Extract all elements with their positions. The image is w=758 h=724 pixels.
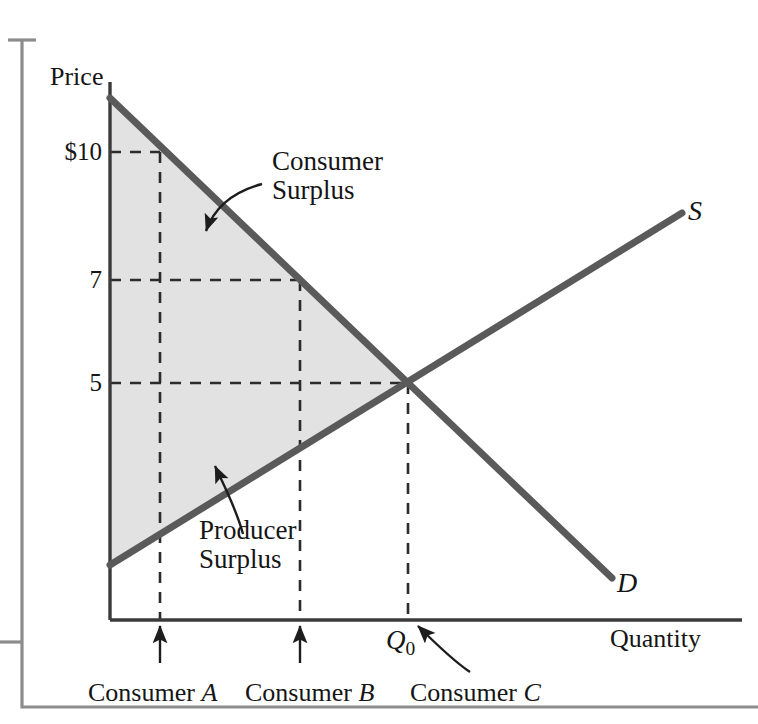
x-axis-title: Quantity [610, 625, 701, 653]
consumer-c-name: Consumer [410, 678, 517, 707]
y-axis-title: Price [50, 63, 103, 91]
q0-letter: Q [386, 625, 406, 655]
demand-curve-label: D [617, 568, 637, 598]
consumer-b-label: Consumer B [245, 679, 374, 707]
q0-subscript: 0 [406, 638, 416, 659]
consumer-surplus-line1: Consumer [272, 147, 383, 176]
consumer-surplus-line2: Surplus [272, 176, 383, 205]
consumer-a-letter: A [201, 678, 217, 707]
supply-demand-chart [0, 0, 758, 724]
arrow-consumer-c [418, 626, 470, 672]
equilibrium-quantity-label: Q0 [386, 626, 415, 659]
producer-surplus-annotation: Producer Surplus [199, 516, 296, 574]
consumer-c-label: Consumer C [410, 679, 541, 707]
consumer-surplus-annotation: Consumer Surplus [272, 147, 383, 205]
consumer-tick-arrows [160, 626, 470, 672]
consumer-b-name: Consumer [245, 678, 352, 707]
consumer-a-label: Consumer A [88, 679, 217, 707]
consumer-b-letter: B [358, 678, 374, 707]
supply-curve-label: S [688, 196, 702, 226]
consumer-c-letter: C [523, 678, 540, 707]
y-tick-label-7: 7 [42, 266, 102, 293]
producer-surplus-line1: Producer [199, 516, 296, 545]
figure-root: Price Quantity $10 7 5 S D Consumer Surp… [0, 0, 758, 724]
y-tick-label-10: $10 [42, 138, 102, 165]
consumer-a-name: Consumer [88, 678, 195, 707]
y-tick-label-5: 5 [42, 369, 102, 396]
producer-surplus-line2: Surplus [199, 545, 296, 574]
